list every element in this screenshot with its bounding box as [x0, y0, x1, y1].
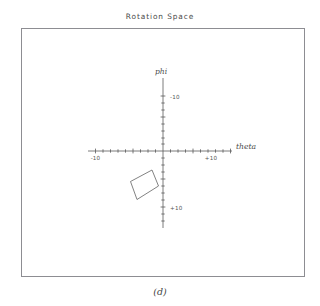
figure-container: Rotation Space: [0, 0, 320, 306]
theta-axis-label: theta: [236, 142, 256, 151]
figure-caption: (d): [0, 286, 320, 297]
theta-tick-label-negative: -10: [91, 155, 101, 161]
phi-axis-group: -10 +10 phi: [155, 67, 183, 228]
phi-tick-label-negative: -10: [170, 94, 180, 100]
plot-axes-and-data: -10 +10 theta: [0, 0, 320, 306]
theta-tick-label-positive: +10: [205, 155, 218, 161]
rotation-region-polygon: [131, 170, 159, 200]
theta-axis-group: -10 +10 theta: [88, 142, 256, 161]
phi-tick-label-positive: +10: [170, 205, 183, 211]
phi-axis-label: phi: [155, 67, 168, 76]
